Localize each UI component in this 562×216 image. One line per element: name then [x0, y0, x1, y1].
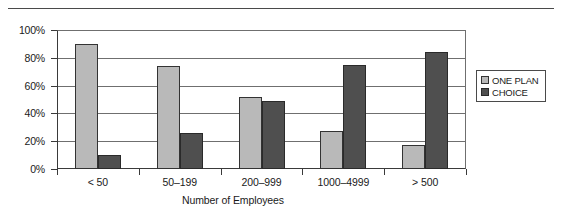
bar-one-plan [320, 131, 343, 169]
bar-one-plan [157, 66, 180, 169]
grouped-bar-chart: 100%80%60%40%20%0% < 5050–199200–9991000… [0, 0, 562, 216]
bar-one-plan [402, 145, 425, 169]
x-axis-category-label: 200–999 [241, 176, 281, 188]
legend-swatch-one-plan [481, 76, 489, 84]
y-axis-tick-label: 0% [30, 163, 45, 175]
legend-label-choice: CHOICE [492, 87, 528, 98]
legend-item-choice: CHOICE [481, 86, 542, 98]
bar-choice [425, 52, 448, 169]
bars-layer [57, 30, 466, 169]
x-axis-category-label: 50–199 [162, 176, 196, 188]
bar-choice [262, 101, 285, 169]
bar-one-plan [239, 97, 262, 169]
bar-choice [343, 65, 366, 169]
legend-label-one-plan: ONE PLAN [492, 75, 538, 86]
bar-one-plan [75, 44, 98, 169]
y-axis-tick-label: 40% [25, 107, 45, 119]
y-axis: 100%80%60%40%20%0% [0, 0, 57, 216]
bar-choice [180, 133, 203, 169]
x-axis-tick [466, 169, 467, 175]
x-axis-category-label: > 500 [412, 176, 438, 188]
y-axis-tick-label: 60% [25, 80, 45, 92]
y-axis-tick-label: 100% [19, 24, 45, 36]
x-axis-tick [139, 169, 140, 175]
x-axis-title: Number of Employees [0, 194, 466, 206]
x-axis-tick [384, 169, 385, 175]
y-axis-tick-label: 20% [25, 135, 45, 147]
x-axis-tick [302, 169, 303, 175]
y-axis-tick-label: 80% [25, 52, 45, 64]
x-axis-category-label: 1000–4999 [317, 176, 369, 188]
bar-choice [98, 155, 121, 169]
chart-legend: ONE PLAN CHOICE [476, 70, 546, 102]
legend-item-one-plan: ONE PLAN [481, 74, 542, 86]
legend-swatch-choice [481, 88, 489, 96]
x-axis-category-label: < 50 [88, 176, 108, 188]
x-axis-tick [221, 169, 222, 175]
x-axis-tick [57, 169, 58, 175]
